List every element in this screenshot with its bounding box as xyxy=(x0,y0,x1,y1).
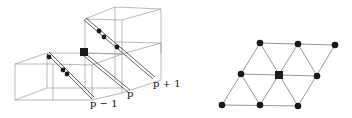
label-p-plus-1: p + 1 xyxy=(153,78,181,89)
lattice-node xyxy=(332,42,339,49)
lattice-node xyxy=(257,102,264,109)
cube-lattice: p − 1 p p + 1 xyxy=(15,7,181,109)
lattice-node-square xyxy=(275,71,283,79)
lattice-node xyxy=(295,41,302,48)
label-p: p xyxy=(127,88,133,99)
particle-dot xyxy=(102,35,107,40)
rod-p-minus-1 xyxy=(47,52,94,99)
left-cube xyxy=(15,53,85,100)
particle-dot xyxy=(115,45,120,50)
middle-cube xyxy=(47,53,122,100)
particle-dot xyxy=(47,55,52,60)
lattice-node xyxy=(257,40,264,47)
particle-dot xyxy=(61,68,66,73)
label-p-minus-1: p − 1 xyxy=(90,98,118,109)
particle-dot xyxy=(97,29,102,34)
lattice-node xyxy=(219,102,226,109)
lattice-node xyxy=(314,73,321,80)
lattice-node xyxy=(238,71,245,78)
square-marker xyxy=(80,48,88,56)
lattice-node xyxy=(295,103,302,110)
diagram-canvas: p − 1 p p + 1 xyxy=(0,0,352,118)
triangular-lattice xyxy=(219,40,339,110)
particle-dot xyxy=(65,72,70,77)
rod-p-plus-1 xyxy=(84,18,155,79)
